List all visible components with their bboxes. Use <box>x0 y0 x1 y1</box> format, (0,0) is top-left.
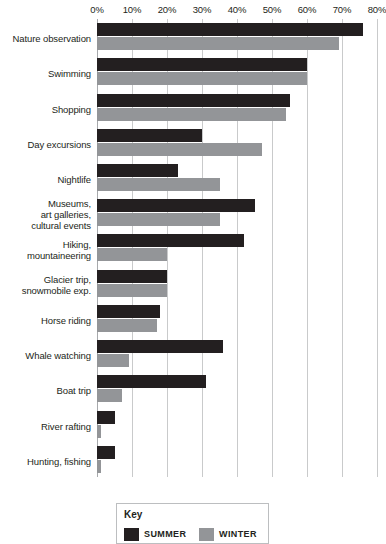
chart-row: Nature observation <box>0 19 382 54</box>
chart-row: Hunting, fishing <box>0 442 382 477</box>
chart-row: Nightlife <box>0 160 382 195</box>
category-label-line: art galleries, <box>0 209 91 220</box>
bar-winter <box>97 37 339 50</box>
category-label-line: Horse riding <box>0 315 91 326</box>
bar-winter <box>97 178 220 191</box>
category-label-line: Museums, <box>0 198 91 209</box>
x-axis-tick-10: 10% <box>123 4 141 16</box>
legend-label-winter: WINTER <box>219 529 257 540</box>
category-label-line: Nature observation <box>0 33 91 44</box>
x-axis-tick-0: 0% <box>90 4 103 16</box>
bar-summer <box>97 305 160 318</box>
legend-title: Key <box>124 509 142 521</box>
category-label: Boat trip <box>0 385 91 396</box>
category-label: Nature observation <box>0 33 91 44</box>
bar-winter <box>97 460 101 473</box>
category-label-line: Swimming <box>0 68 91 79</box>
category-label-line: River rafting <box>0 421 91 432</box>
bar-winter <box>97 143 262 156</box>
bar-summer <box>97 375 206 388</box>
category-label-line: Boat trip <box>0 385 91 396</box>
bar-winter <box>97 108 286 121</box>
x-axis-tick-50: 50% <box>263 4 281 16</box>
chart-row: Boat trip <box>0 371 382 406</box>
category-label: Hunting, fishing <box>0 456 91 467</box>
chart-row: Whale watching <box>0 336 382 371</box>
legend-swatch-winter-icon <box>199 528 214 541</box>
x-axis-tick-60: 60% <box>298 4 316 16</box>
category-label: Swimming <box>0 68 91 79</box>
bar-summer <box>97 446 115 459</box>
category-label: Shopping <box>0 104 91 115</box>
chart-row: Museums,art galleries,cultural events <box>0 195 382 230</box>
category-label-line: Day excursions <box>0 139 91 150</box>
chart-row: Horse riding <box>0 301 382 336</box>
bar-summer <box>97 340 223 353</box>
bar-summer <box>97 411 115 424</box>
chart-row: Hiking,mountaineering <box>0 230 382 265</box>
category-label-line: Nightlife <box>0 174 91 185</box>
bar-winter <box>97 72 307 85</box>
bar-summer <box>97 270 167 283</box>
category-label-line: Hiking, <box>0 239 91 250</box>
chart-row: River rafting <box>0 407 382 442</box>
category-label-line: Hunting, fishing <box>0 456 91 467</box>
bar-winter <box>97 319 157 332</box>
x-axis-tick-40: 40% <box>228 4 246 16</box>
bar-winter <box>97 389 122 402</box>
category-label: River rafting <box>0 421 91 432</box>
bar-summer <box>97 23 363 36</box>
category-label-line: Whale watching <box>0 350 91 361</box>
bar-summer <box>97 58 307 71</box>
x-axis-tick-labels: 0%10%20%30%40%50%60%70%80% <box>0 4 382 18</box>
bar-winter <box>97 248 167 261</box>
category-label: Whale watching <box>0 350 91 361</box>
chart-rows: Nature observationSwimmingShoppingDay ex… <box>0 19 382 477</box>
x-axis-tick-30: 30% <box>193 4 211 16</box>
x-axis-tick-20: 20% <box>158 4 176 16</box>
category-label-line: Shopping <box>0 104 91 115</box>
chart-row: Glacier trip,snowmobile exp. <box>0 266 382 301</box>
chart-row: Shopping <box>0 89 382 124</box>
category-label: Museums,art galleries,cultural events <box>0 198 91 231</box>
legend-label-summer: SUMMER <box>144 529 186 540</box>
bar-summer <box>97 129 202 142</box>
category-label: Horse riding <box>0 315 91 326</box>
x-axis-tick-80: 80% <box>368 4 386 16</box>
bar-winter <box>97 213 220 226</box>
category-label: Hiking,mountaineering <box>0 239 91 261</box>
bar-summer <box>97 94 290 107</box>
chart-row: Swimming <box>0 54 382 89</box>
legend: Key SUMMER WINTER <box>116 503 269 544</box>
category-label: Nightlife <box>0 174 91 185</box>
bar-summer <box>97 234 244 247</box>
bar-winter <box>97 354 129 367</box>
x-axis-tick-70: 70% <box>333 4 351 16</box>
category-label: Glacier trip,snowmobile exp. <box>0 274 91 296</box>
legend-swatch-summer-icon <box>124 528 139 541</box>
chart-row: Day excursions <box>0 125 382 160</box>
category-label-line: snowmobile exp. <box>0 285 91 296</box>
category-label-line: mountaineering <box>0 250 91 261</box>
bar-winter <box>97 425 101 438</box>
bar-summer <box>97 164 178 177</box>
bar-winter <box>97 284 167 297</box>
category-label-line: Glacier trip, <box>0 274 91 285</box>
bar-summer <box>97 199 255 212</box>
category-label: Day excursions <box>0 139 91 150</box>
